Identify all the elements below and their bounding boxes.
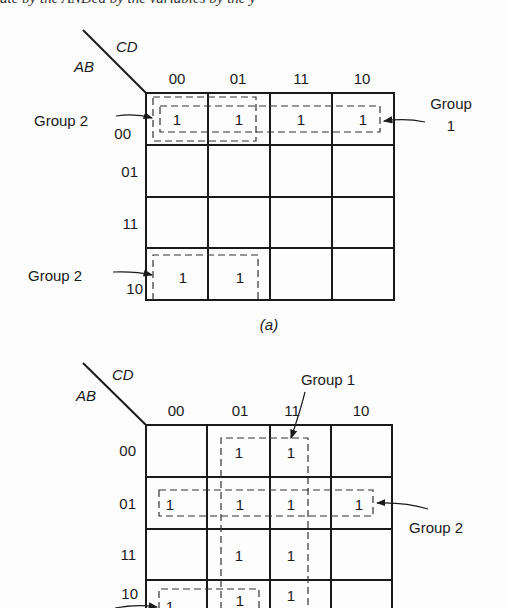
cell-value: 1 — [287, 587, 295, 604]
cell-value: 1 — [235, 547, 243, 564]
cell-value: 1 — [359, 111, 367, 128]
cell-value: 1 — [179, 269, 187, 286]
row-label: 11 — [120, 546, 136, 563]
row-var-label: AB — [73, 58, 94, 75]
col-var-label: CD — [116, 38, 138, 55]
group1-label-line1: Group — [430, 95, 472, 112]
cell-value: 1 — [355, 496, 363, 513]
col-label: 10 — [354, 70, 371, 87]
caption-a: (a) — [260, 316, 278, 333]
cell-value: 1 — [235, 444, 243, 461]
col-label: 00 — [169, 70, 186, 87]
col-label: 01 — [230, 70, 247, 87]
col-label: 11 — [284, 402, 300, 419]
row-label: 10 — [126, 280, 143, 297]
cell-value: 1 — [236, 592, 244, 608]
group2-loop — [159, 490, 373, 516]
cell-value: 1 — [236, 269, 244, 286]
cell-value: 1 — [166, 598, 174, 608]
row-var-label: AB — [75, 387, 96, 404]
kmap-b: CD AB 00 01 11 10 00 01 11 10 1 1 1 1 1 … — [75, 363, 463, 608]
group1-label-line2: 1 — [447, 117, 455, 134]
group2-label-bottom: Group 2 — [28, 267, 82, 284]
cell-value: 1 — [236, 496, 244, 513]
row-label: 00 — [119, 442, 136, 459]
karnaugh-maps-figure: CD AB 00 01 11 10 00 01 11 10 1 1 1 1 1 … — [0, 0, 507, 608]
col-label: 00 — [168, 402, 185, 419]
col-var-label: CD — [112, 366, 134, 383]
col-label: 10 — [353, 402, 370, 419]
row-label: 01 — [121, 163, 138, 180]
row-label: 01 — [119, 495, 136, 512]
row-label: 10 — [121, 585, 138, 602]
cell-value: 1 — [287, 547, 295, 564]
cell-value: 1 — [287, 496, 295, 513]
cell-value: 1 — [166, 496, 174, 513]
group2-label-top: Group 2 — [34, 112, 88, 129]
cell-value: 1 — [173, 111, 181, 128]
row-label: 11 — [122, 215, 138, 232]
group1-label: Group 1 — [301, 371, 355, 388]
group1-loop — [221, 438, 308, 608]
col-label: 11 — [293, 70, 309, 87]
row-label: 00 — [114, 125, 131, 142]
cell-value: 1 — [235, 111, 243, 128]
kmap-a: CD AB 00 01 11 10 00 01 11 10 1 1 1 1 1 … — [28, 30, 472, 333]
col-label: 01 — [232, 402, 249, 419]
cell-value: 1 — [297, 111, 305, 128]
cell-value: 1 — [287, 444, 295, 461]
group2-label: Group 2 — [409, 519, 463, 536]
